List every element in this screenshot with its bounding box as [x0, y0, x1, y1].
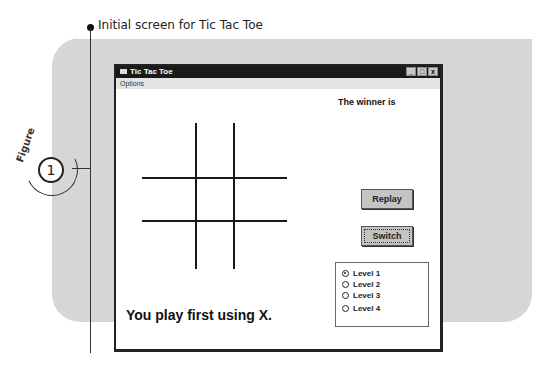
menu-options[interactable]: Options: [120, 78, 144, 89]
switch-button[interactable]: Switch: [361, 226, 413, 246]
level-radio-group: Level 1 Level 2 Level 3 Level 4: [335, 262, 429, 327]
status-message: You play first using X.: [126, 307, 272, 323]
figure-caption: Initial screen for Tic Tac Toe: [98, 18, 263, 32]
grid-line-vertical-1: [195, 123, 197, 269]
app-icon: [120, 69, 127, 74]
leader-line-vertical: [90, 28, 91, 353]
grid-line-horizontal-2: [142, 220, 287, 222]
replay-button[interactable]: Replay: [361, 189, 413, 209]
radio-icon[interactable]: [342, 305, 349, 312]
grid-line-horizontal-1: [142, 177, 287, 179]
grid-line-vertical-2: [233, 123, 235, 269]
title-bar[interactable]: Tic Tac Toe _ □ x: [116, 66, 440, 78]
close-button[interactable]: x: [428, 67, 438, 76]
radio-icon[interactable]: [342, 292, 349, 299]
figure-number: 1: [38, 157, 64, 183]
window-title: Tic Tac Toe: [130, 66, 173, 78]
winner-label: The winner is: [338, 97, 396, 107]
tic-tac-toe-window: Tic Tac Toe _ □ x Options The winner is …: [114, 64, 443, 352]
menu-bar: Options: [116, 78, 440, 89]
radio-selected-icon[interactable]: [342, 270, 349, 277]
level-1-option[interactable]: Level 1: [342, 269, 380, 278]
maximize-button[interactable]: □: [417, 67, 427, 76]
minimize-button[interactable]: _: [406, 67, 416, 76]
radio-icon[interactable]: [342, 281, 349, 288]
level-4-option[interactable]: Level 4: [342, 304, 380, 313]
level-3-option[interactable]: Level 3: [342, 291, 380, 300]
level-2-option[interactable]: Level 2: [342, 280, 380, 289]
